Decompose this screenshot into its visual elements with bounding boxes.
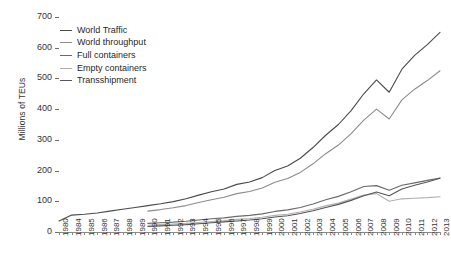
x-axis-tick-label: 1992 [177,218,185,236]
x-axis-tick-label: 1984 [75,218,83,236]
x-axis-tick-label: 2005 [342,218,350,236]
x-axis-tick-mark [237,232,238,235]
x-axis-tick-label: 1994 [202,218,210,236]
x-axis-tick-label: 1986 [101,218,109,236]
x-axis-tick-label: 1980 [62,218,70,236]
x-axis-tick-label: 1988 [126,218,134,236]
x-axis-tick-mark [288,232,289,235]
x-axis-tick-label: 2000 [278,218,286,236]
x-axis-tick-mark [262,232,263,235]
x-axis-tick-mark [123,232,124,235]
x-axis-tick-label: 1985 [88,218,96,236]
series-canvas [59,17,440,232]
x-axis-tick-mark [351,232,352,235]
x-axis-tick-mark [161,232,162,235]
x-axis-tick-mark [377,232,378,235]
y-axis-tick-label: 100 [18,196,52,205]
x-axis-tick-label: 2004 [329,218,337,236]
x-axis-tick-label: 2006 [355,218,363,236]
x-axis-tick-mark [211,232,212,235]
y-axis-tick-label: 0 [18,227,52,236]
x-axis-tick-mark [135,232,136,235]
x-axis-tick-label: 1987 [113,218,121,236]
x-axis-tick-mark [250,232,251,235]
x-axis-tick-label: 1997 [240,218,248,236]
x-axis-tick-mark [84,232,85,235]
y-axis-tick-label: 300 [18,135,52,144]
x-axis-tick-mark [326,232,327,235]
x-axis-tick-mark [402,232,403,235]
y-axis-tick-label: 200 [18,166,52,175]
x-axis-tick-label: 1998 [253,218,261,236]
y-axis-tick-label: 700 [18,12,52,21]
x-axis-tick-label: 2009 [393,218,401,236]
x-axis-tick-label: 2008 [380,218,388,236]
x-axis-tick-mark [440,232,441,235]
plot-area [59,17,440,232]
x-axis-tick-mark [186,232,187,235]
x-axis-tick-mark [415,232,416,235]
y-axis-tick-label: 400 [18,104,52,113]
x-axis-tick-mark [275,232,276,235]
series-line [148,178,440,223]
x-axis-tick-label: 2002 [304,218,312,236]
series-line [148,71,440,211]
x-axis-tick-mark [97,232,98,235]
x-axis-tick-mark [224,232,225,235]
x-axis-tick-mark [72,232,73,235]
x-axis-tick-label: 2011 [418,219,426,236]
x-axis-tick-label: 1999 [266,218,274,236]
x-axis-tick-mark [110,232,111,235]
x-axis-tick-label: 1995 [215,218,223,236]
x-axis-tick-label: 1996 [228,218,236,236]
y-axis-tick-label: 600 [18,43,52,52]
x-axis-tick-label: 2001 [291,218,299,236]
x-axis-tick-mark [173,232,174,235]
x-axis-tick-label: 2003 [316,218,324,236]
x-axis-tick-label: 2007 [367,218,375,236]
x-axis-tick-label: 1993 [189,218,197,236]
series-line [59,32,440,221]
x-axis-tick-label: 1991 [164,218,172,236]
x-axis-tick-mark [338,232,339,235]
x-axis-tick-label: 1989 [139,218,147,236]
x-axis-tick-label: 2010 [405,218,413,236]
x-axis-tick-mark [364,232,365,235]
x-axis-tick-mark [300,232,301,235]
x-axis-tick-mark [313,232,314,235]
x-axis-tick-label: 2013 [443,218,451,236]
x-axis-tick-mark [199,232,200,235]
x-axis-tick-label: 2012 [431,218,439,236]
x-axis-tick-mark [148,232,149,235]
x-axis-tick-label: 1990 [151,218,159,236]
x-axis-tick-mark [59,232,60,235]
x-axis-tick-mark [389,232,390,235]
x-axis-tick-mark [427,232,428,235]
y-axis-tick-label: 500 [18,73,52,82]
